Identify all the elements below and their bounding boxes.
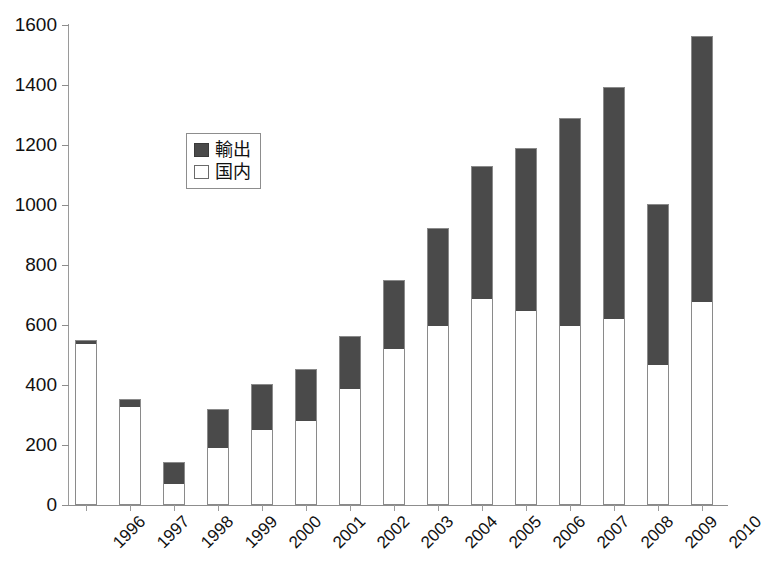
y-tick-label-200: 200 [25, 434, 57, 456]
bar-segment-export-2002 [340, 337, 360, 390]
bar-segment-export-1999 [208, 410, 228, 448]
bar-2005 [471, 166, 493, 505]
bar-segment-export-2006 [516, 149, 536, 311]
x-tick-mark-2009 [658, 505, 659, 511]
bar-segment-domestic-1996 [76, 344, 96, 504]
bar-2009 [647, 204, 669, 506]
bar-2010 [691, 36, 713, 506]
x-tick-label-2000: 2000 [285, 512, 326, 553]
x-tick-label-2006: 2006 [549, 512, 590, 553]
x-tick-mark-2004 [438, 505, 439, 511]
x-tick-label-1996: 1996 [109, 512, 150, 553]
bar-2003 [383, 280, 405, 505]
bar-2001 [295, 369, 317, 506]
legend-item-export: 輸出 [194, 139, 251, 161]
bar-segment-export-2003 [384, 281, 404, 349]
legend: 輸出 国内 [186, 133, 261, 189]
x-tick-label-2009: 2009 [681, 512, 722, 553]
y-tick-label-600: 600 [25, 314, 57, 336]
bar-segment-domestic-2004 [428, 326, 448, 504]
bar-segment-export-2008 [604, 88, 624, 319]
x-tick-mark-2000 [262, 505, 263, 511]
y-tick-label-1000: 1000 [15, 194, 57, 216]
bar-segment-domestic-2002 [340, 389, 360, 504]
bar-1999 [207, 409, 229, 505]
legend-swatch-domestic-icon [194, 165, 209, 179]
y-tick-label-1400: 1400 [15, 74, 57, 96]
x-tick-mark-2005 [482, 505, 483, 511]
x-tick-label-2004: 2004 [461, 512, 502, 553]
x-tick-label-2003: 2003 [417, 512, 458, 553]
y-tick-label-400: 400 [25, 374, 57, 396]
legend-label-export: 輸出 [215, 141, 251, 159]
x-tick-mark-2006 [526, 505, 527, 511]
x-tick-mark-1999 [218, 505, 219, 511]
bar-segment-export-1998 [164, 463, 184, 484]
bar-1998 [163, 462, 185, 506]
x-tick-label-2001: 2001 [329, 512, 370, 553]
bar-segment-export-2007 [560, 119, 580, 326]
y-tick-mark-0 [62, 505, 69, 506]
bar-2000 [251, 384, 273, 506]
y-tick-label-1200: 1200 [15, 134, 57, 156]
x-tick-label-2007: 2007 [593, 512, 634, 553]
bar-segment-export-2005 [472, 167, 492, 299]
x-tick-mark-2010 [702, 505, 703, 511]
y-tick-label-0: 0 [46, 494, 57, 516]
x-tick-label-2010: 2010 [725, 512, 765, 553]
x-tick-label-2002: 2002 [373, 512, 414, 553]
bar-segment-domestic-2006 [516, 311, 536, 504]
x-tick-mark-2008 [614, 505, 615, 511]
legend-swatch-export-icon [194, 143, 209, 157]
bar-segment-domestic-2008 [604, 319, 624, 505]
bar-segment-domestic-2005 [472, 299, 492, 504]
bar-2006 [515, 148, 537, 505]
bar-2008 [603, 87, 625, 506]
x-tick-mark-2001 [306, 505, 307, 511]
bar-segment-domestic-1997 [120, 407, 140, 504]
bar-segment-export-2010 [692, 37, 712, 303]
bar-2007 [559, 118, 581, 505]
x-tick-mark-1996 [86, 505, 87, 511]
bar-1997 [119, 399, 141, 506]
bar-1996 [75, 340, 97, 505]
x-tick-label-2005: 2005 [505, 512, 546, 553]
bar-segment-domestic-1998 [164, 484, 184, 505]
bar-segment-domestic-1999 [208, 448, 228, 505]
x-tick-mark-1998 [174, 505, 175, 511]
bar-segment-domestic-2001 [296, 421, 316, 505]
bar-segment-domestic-2007 [560, 326, 580, 504]
bar-segment-domestic-2003 [384, 349, 404, 505]
x-axis-line [62, 505, 728, 506]
x-tick-label-1999: 1999 [241, 512, 282, 553]
bar-segment-export-2001 [296, 370, 316, 421]
plot-area [68, 25, 728, 505]
x-tick-label-1998: 1998 [197, 512, 238, 553]
bar-segment-export-2004 [428, 229, 448, 327]
bar-2004 [427, 228, 449, 506]
bar-2002 [339, 336, 361, 506]
x-tick-label-1997: 1997 [153, 512, 194, 553]
legend-label-domestic: 国内 [215, 163, 251, 181]
x-tick-mark-1997 [130, 505, 131, 511]
bar-segment-domestic-2009 [648, 365, 668, 504]
bar-segment-export-2000 [252, 385, 272, 430]
bar-segment-export-2009 [648, 205, 668, 366]
x-tick-mark-2003 [394, 505, 395, 511]
legend-item-domestic: 国内 [194, 161, 251, 183]
y-tick-label-800: 800 [25, 254, 57, 276]
bar-segment-domestic-2000 [252, 430, 272, 505]
x-tick-label-2008: 2008 [637, 512, 678, 553]
y-tick-label-1600: 1600 [15, 14, 57, 36]
bar-segment-domestic-2010 [692, 302, 712, 504]
x-tick-mark-2007 [570, 505, 571, 511]
bar-segment-export-1997 [120, 400, 140, 408]
x-tick-mark-2002 [350, 505, 351, 511]
